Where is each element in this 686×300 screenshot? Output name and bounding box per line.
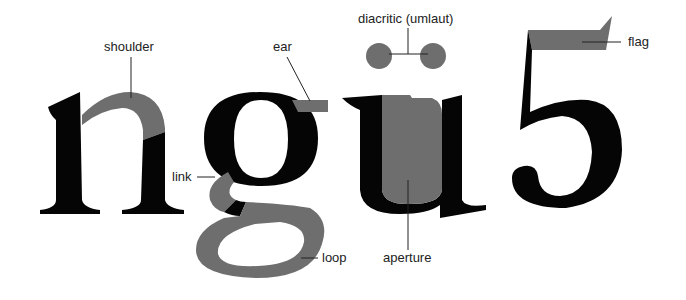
umlaut-dot-right — [420, 43, 446, 69]
loop-highlight — [196, 202, 324, 278]
glyph-5 — [512, 16, 622, 208]
aperture-highlight — [382, 95, 442, 204]
label-flag: flag — [628, 34, 649, 49]
label-diacritic: diacritic (umlaut) — [358, 11, 453, 26]
flag-highlight — [528, 16, 612, 50]
label-aperture: aperture — [383, 250, 431, 265]
label-ear: ear — [273, 39, 292, 54]
label-shoulder: shoulder — [104, 39, 155, 54]
label-loop: loop — [322, 250, 347, 265]
umlaut-dot-left — [366, 43, 392, 69]
glyph-g — [196, 92, 328, 278]
glyph-u-umlaut — [342, 43, 486, 218]
type-anatomy-diagram: shoulder ear diacritic (umlaut) flag lin… — [0, 0, 686, 300]
glyph-n — [40, 92, 184, 214]
ear-highlight — [292, 100, 328, 112]
label-link: link — [172, 169, 192, 184]
shoulder-highlight — [82, 92, 165, 140]
